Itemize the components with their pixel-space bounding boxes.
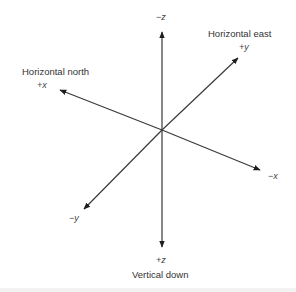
y-axis-positive-line — [162, 58, 238, 130]
pos-z-label: +z — [156, 256, 166, 265]
horizontal-north-label: Horizontal north — [22, 67, 89, 77]
x-axis-positive-line — [60, 90, 162, 130]
x-axis-negative-line — [162, 130, 260, 170]
neg-y-label: −y — [69, 214, 79, 223]
neg-x-label: −x — [268, 172, 278, 181]
vertical-down-label: Vertical down — [132, 270, 189, 280]
pos-y-label: +y — [239, 43, 249, 52]
neg-z-label: −z — [156, 13, 166, 22]
y-axis-negative-line — [84, 130, 162, 209]
coordinate-axes-diagram — [0, 0, 296, 292]
bottom-edge-band — [0, 288, 296, 292]
horizontal-east-label: Horizontal east — [208, 29, 271, 39]
pos-x-label: +x — [37, 81, 47, 90]
